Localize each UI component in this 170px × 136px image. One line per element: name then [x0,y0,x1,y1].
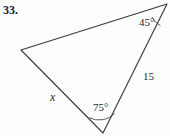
angle-label-bottom: 75° [93,102,108,113]
side-length-label-right: 15 [143,71,154,82]
geometry-figure: 33. 45° 75° 15 x [0,0,170,136]
angle-label-top-right: 45° [139,17,154,28]
side-length-label-left: x [50,91,55,103]
angle-arc-bottom-icon [90,114,115,121]
